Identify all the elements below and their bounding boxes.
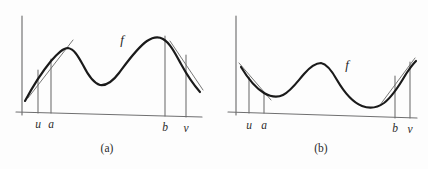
panel-caption-a: (a)	[0, 143, 214, 155]
tick-label-v: v	[407, 124, 412, 136]
function-label-f: f	[345, 58, 349, 71]
tick-label-a: a	[48, 119, 54, 131]
figure-root: f u a b v (a) f u a b v (b)	[0, 0, 428, 169]
tick-label-a: a	[261, 120, 267, 132]
tick-label-v: v	[183, 123, 188, 135]
function-curve	[241, 61, 416, 108]
figure-panel-a: f u a b v (a)	[0, 0, 214, 169]
panel-caption-b: (b)	[214, 143, 428, 155]
tick-label-u: u	[35, 119, 41, 131]
tick-label-b: b	[162, 122, 168, 134]
tick-label-u: u	[246, 120, 252, 132]
figure-panel-b: f u a b v (b)	[214, 0, 428, 169]
x-axis	[16, 112, 202, 117]
x-axis	[228, 112, 417, 118]
function-label-f: f	[120, 33, 124, 46]
tick-label-b: b	[392, 123, 398, 135]
